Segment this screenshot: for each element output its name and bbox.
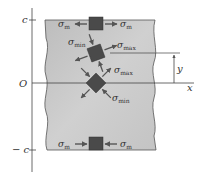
beam-stress-diagram: c O − c x y σm σm σmin σmax [0, 0, 204, 177]
label-origin: O [19, 78, 27, 89]
stress-element-square [89, 137, 103, 150]
stress-element-square [89, 17, 103, 30]
label-y: y [176, 63, 183, 74]
element-top: σm σm [58, 17, 132, 30]
label-minus-c: − c [12, 144, 30, 155]
label-c: c [22, 14, 28, 25]
label-x: x [187, 82, 193, 93]
